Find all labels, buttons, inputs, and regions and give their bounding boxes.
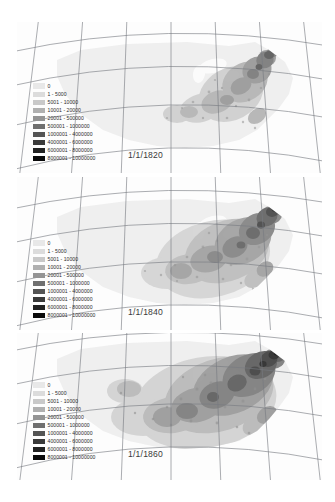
legend-item: 0 (33, 82, 95, 90)
legend-label: 1000001 - 4000000 (48, 132, 93, 137)
legend-swatch (33, 240, 45, 245)
legend-swatch (33, 289, 45, 294)
legend-label: 500001 - 1000000 (48, 124, 90, 129)
legend-item: 6000001 - 8000000 (33, 147, 95, 155)
legend: 0 1 - 5000 5001 - 10000 10001 - 20000 20… (33, 239, 95, 320)
legend-label: 6000001 - 8000000 (48, 447, 93, 452)
legend-swatch (33, 391, 45, 396)
legend-swatch (33, 455, 45, 460)
legend-label: 0 (48, 241, 51, 246)
legend-item: 6000001 - 8000000 (33, 446, 95, 454)
legend-swatch (33, 265, 45, 270)
legend-label: 8000001 - 10000000 (48, 156, 96, 161)
legend-label: 1 - 5000 (48, 391, 67, 396)
legend-item: 6000001 - 8000000 (33, 304, 95, 312)
legend-label: 5001 - 10000 (48, 100, 79, 105)
legend-label: 1 - 5000 (48, 249, 67, 254)
legend-label: 0 (48, 84, 51, 89)
legend-item: 20001 - 500000 (33, 271, 95, 279)
legend-item: 8000001 - 10000000 (33, 155, 95, 163)
legend-label: 5001 - 10000 (48, 257, 79, 262)
legend-swatch (33, 124, 45, 129)
legend-item: 1 - 5000 (33, 247, 95, 255)
legend-swatch (33, 116, 45, 121)
legend-item: 1000001 - 4000000 (33, 288, 95, 296)
legend-item: 10001 - 20000 (33, 405, 95, 413)
legend-swatch (33, 313, 45, 318)
legend-swatch (33, 92, 45, 97)
legend-item: 4000001 - 6000000 (33, 438, 95, 446)
legend-swatch (33, 108, 45, 113)
legend-label: 1000001 - 4000000 (48, 431, 93, 436)
legend-label: 4000001 - 6000000 (48, 297, 93, 302)
legend-label: 6000001 - 8000000 (48, 305, 93, 310)
legend-label: 10001 - 20000 (48, 265, 82, 270)
legend-swatch (33, 100, 45, 105)
legend-swatch (33, 273, 45, 278)
legend-item: 1 - 5000 (33, 90, 95, 98)
legend-item: 500001 - 1000000 (33, 122, 95, 130)
legend: 0 1 - 5000 5001 - 10000 10001 - 20000 20… (33, 381, 95, 462)
legend-swatch (33, 140, 45, 145)
figure-sheet: 0 1 - 5000 5001 - 10000 10001 - 20000 20… (0, 0, 335, 502)
legend-item: 20001 - 500000 (33, 114, 95, 122)
legend-swatch (33, 407, 45, 412)
legend-item: 5001 - 10000 (33, 98, 95, 106)
legend-swatch (33, 83, 45, 88)
legend-label: 10001 - 20000 (48, 108, 82, 113)
legend-swatch (33, 382, 45, 387)
legend-label: 1 - 5000 (48, 92, 67, 97)
legend-item: 10001 - 20000 (33, 263, 95, 271)
legend-swatch (33, 156, 45, 161)
legend-label: 8000001 - 10000000 (48, 455, 96, 460)
legend-swatch (33, 447, 45, 452)
legend-item: 5001 - 10000 (33, 255, 95, 263)
legend-label: 500001 - 1000000 (48, 423, 90, 428)
legend-item: 500001 - 1000000 (33, 279, 95, 287)
legend-label: 20001 - 500000 (48, 116, 84, 121)
legend-label: 20001 - 500000 (48, 273, 84, 278)
legend-item: 0 (33, 239, 95, 247)
legend-item: 1 - 5000 (33, 389, 95, 397)
panel-date-label: 1/1/1840 (128, 307, 163, 317)
legend-swatch (33, 148, 45, 153)
legend-label: 8000001 - 10000000 (48, 313, 96, 318)
map-panel: 0 1 - 5000 5001 - 10000 10001 - 20000 20… (17, 177, 322, 330)
legend-item: 20001 - 500000 (33, 413, 95, 421)
legend-label: 500001 - 1000000 (48, 281, 90, 286)
legend-item: 0 (33, 381, 95, 389)
legend-item: 8000001 - 10000000 (33, 312, 95, 320)
map-panel: 0 1 - 5000 5001 - 10000 10001 - 20000 20… (17, 333, 322, 480)
legend-swatch (33, 305, 45, 310)
legend-swatch (33, 297, 45, 302)
legend-item: 4000001 - 6000000 (33, 296, 95, 304)
panel-date-label: 1/1/1820 (128, 150, 163, 160)
legend-label: 5001 - 10000 (48, 399, 79, 404)
panel-date-label: 1/1/1860 (128, 449, 163, 459)
legend-swatch (33, 399, 45, 404)
legend-item: 1000001 - 4000000 (33, 430, 95, 438)
legend-swatch (33, 281, 45, 286)
legend-swatch (33, 431, 45, 436)
legend-item: 1000001 - 4000000 (33, 131, 95, 139)
legend-label: 4000001 - 6000000 (48, 140, 93, 145)
legend-item: 500001 - 1000000 (33, 421, 95, 429)
legend-item: 4000001 - 6000000 (33, 139, 95, 147)
legend-label: 6000001 - 8000000 (48, 148, 93, 153)
legend-item: 5001 - 10000 (33, 397, 95, 405)
map-panel: 0 1 - 5000 5001 - 10000 10001 - 20000 20… (17, 22, 322, 173)
legend-label: 20001 - 500000 (48, 415, 84, 420)
legend-swatch (33, 257, 45, 262)
legend-swatch (33, 439, 45, 444)
legend-swatch (33, 132, 45, 137)
legend-label: 4000001 - 6000000 (48, 439, 93, 444)
legend-label: 0 (48, 383, 51, 388)
legend-item: 10001 - 20000 (33, 106, 95, 114)
legend-swatch (33, 423, 45, 428)
legend-item: 8000001 - 10000000 (33, 454, 95, 462)
legend-swatch (33, 249, 45, 254)
legend-label: 10001 - 20000 (48, 407, 82, 412)
legend-swatch (33, 415, 45, 420)
legend-label: 1000001 - 4000000 (48, 289, 93, 294)
legend: 0 1 - 5000 5001 - 10000 10001 - 20000 20… (33, 82, 95, 163)
